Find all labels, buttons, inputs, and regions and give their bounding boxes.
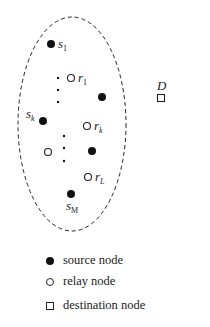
open-circle-icon: [84, 123, 91, 130]
open-circle-icon: [68, 75, 75, 82]
destination-node: D: [156, 78, 167, 102]
legend-item-source: source node: [46, 253, 123, 268]
legend-label: source node: [63, 253, 123, 268]
filled-circle-icon: [98, 93, 106, 101]
node-label: s1: [58, 36, 67, 53]
ellipsis-dots: [57, 77, 65, 162]
cluster-ellipse: [18, 17, 126, 231]
legend-label: relay node: [63, 274, 115, 289]
node-label: r1: [78, 70, 87, 87]
legend-label: destination node: [63, 298, 145, 313]
open-circle-icon: [46, 278, 54, 286]
relay-node: rk: [84, 118, 104, 135]
ellipsis-dot: [57, 89, 59, 91]
filled-circle-icon: [47, 40, 55, 48]
ellipsis-dot: [63, 147, 65, 149]
filled-circle-icon: [39, 117, 47, 125]
destination-label: D: [156, 78, 167, 93]
network-diagram: s1r1skrkrLsM D: [0, 0, 210, 240]
relay-node: [45, 149, 52, 156]
open-circle-icon: [85, 174, 92, 181]
open-circle-icon: [45, 149, 52, 156]
relay-node: r1: [68, 70, 88, 87]
node-label: rL: [95, 169, 105, 186]
open-square-icon: [46, 302, 54, 310]
legend-item-relay: relay node: [46, 274, 115, 289]
ellipsis-dot: [63, 135, 65, 137]
filled-circle-icon: [46, 257, 54, 265]
node-label: sk: [26, 106, 35, 123]
ellipsis-dot: [57, 77, 59, 79]
nodes-layer: s1r1skrkrLsM: [26, 36, 106, 215]
ellipsis-dot: [57, 101, 59, 103]
filled-circle-icon: [88, 147, 96, 155]
legend-item-destination: destination node: [46, 298, 145, 313]
node-label: sM: [66, 198, 78, 215]
source-node: sM: [66, 190, 78, 215]
filled-circle-icon: [67, 190, 75, 198]
source-node: sk: [26, 106, 47, 125]
node-label: rk: [94, 118, 103, 135]
relay-node: rL: [85, 169, 106, 186]
source-node: [88, 147, 96, 155]
source-node: s1: [47, 36, 67, 53]
source-node: [98, 93, 106, 101]
ellipsis-dot: [63, 160, 65, 162]
open-square-icon: [158, 95, 165, 102]
